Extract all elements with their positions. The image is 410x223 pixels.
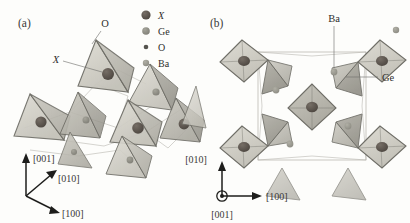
legend-marker-ba xyxy=(143,60,149,66)
legend-label-ba: Ba xyxy=(158,58,170,69)
atom-ge xyxy=(127,157,134,164)
atom-x xyxy=(376,142,388,152)
germanium-callout-label: Ge xyxy=(382,72,395,83)
atom-ge xyxy=(152,88,159,95)
atom-x xyxy=(306,102,318,112)
oxygen-callout-label: O xyxy=(101,18,109,29)
atom-ba xyxy=(331,69,338,76)
legend-label-ge: Ge xyxy=(158,26,170,37)
axis-001-b-label: [001] xyxy=(211,209,233,220)
axis-100-b-label: [100] xyxy=(266,191,288,202)
axis-010-a-label: [010] xyxy=(58,173,80,184)
legend-marker-o xyxy=(144,45,149,50)
axis-010-b-label: [010] xyxy=(185,154,207,165)
axis-001-a-label: [001] xyxy=(33,153,55,164)
atom-x xyxy=(35,116,46,127)
atom-ba xyxy=(273,87,280,94)
atom-x xyxy=(238,56,250,66)
legend-marker-ge xyxy=(142,27,150,35)
atom-ge xyxy=(83,117,90,124)
atom-ba xyxy=(393,27,399,33)
barium-callout-label: Ba xyxy=(328,13,340,24)
crystal-structure-figure: (a) xyxy=(0,0,410,223)
figure-canvas: (a) xyxy=(0,0,410,223)
atom-x xyxy=(102,68,114,80)
legend-label-x: X xyxy=(157,10,165,21)
legend-label-o: O xyxy=(158,42,165,53)
atom-ge xyxy=(71,149,77,155)
legend-marker-x xyxy=(141,10,150,19)
panel-b-label: (b) xyxy=(210,17,224,30)
atom-x xyxy=(238,142,250,152)
atom-ba xyxy=(345,123,352,130)
x-atom-callout-label: X xyxy=(52,54,60,65)
atom-x xyxy=(132,122,144,134)
axis-100-a-label: [100] xyxy=(62,208,84,219)
out-of-plane-dot-icon xyxy=(220,194,224,198)
panel-a-label: (a) xyxy=(18,17,31,30)
atom-x xyxy=(376,56,388,66)
atom-ba xyxy=(287,141,294,148)
